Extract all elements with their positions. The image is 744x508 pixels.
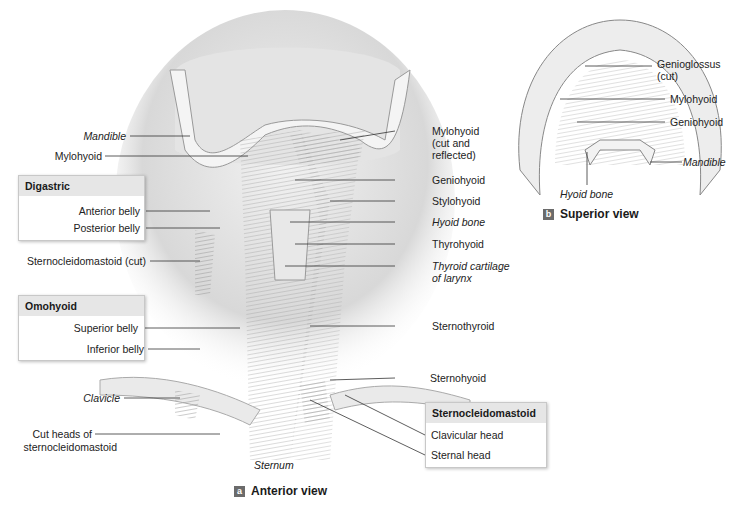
caption-superior-text: Superior view xyxy=(560,207,639,221)
label-mylohyoid-reflected-2: (cut and xyxy=(432,137,470,149)
omohyoid-title: Omohyoid xyxy=(19,296,144,316)
anatomy-illustration xyxy=(0,0,744,508)
label-thyrohyoid: Thyrohyoid xyxy=(432,238,484,250)
inset-label-genioglossus-2: (cut) xyxy=(657,70,678,82)
inset-label-genioglossus-1: Genioglossus xyxy=(657,58,721,70)
inset-label-mandible: Mandible xyxy=(683,156,726,168)
caption-anterior-text: Anterior view xyxy=(251,484,327,498)
label-posterior-belly: Posterior belly xyxy=(40,222,140,234)
label-superior-belly: Superior belly xyxy=(40,322,138,334)
label-anterior-belly: Anterior belly xyxy=(40,205,140,217)
label-sternum: Sternum xyxy=(254,459,294,471)
inset-label-geniohyoid: Geniohyoid xyxy=(670,116,723,128)
label-sternal-head: Sternal head xyxy=(431,449,491,461)
label-thyroid-cartilage-1: Thyroid cartilage xyxy=(432,260,510,272)
label-mylohyoid-reflected-3: reflected) xyxy=(432,149,476,161)
label-hyoid-bone: Hyoid bone xyxy=(432,216,485,228)
label-sternohyoid: Sternohyoid xyxy=(430,372,486,384)
caption-anterior-view: aAnterior view xyxy=(234,484,327,498)
sternocleidomastoid-title: Sternocleidomastoid xyxy=(426,403,546,423)
label-stylohyoid: Stylohyoid xyxy=(432,195,480,207)
label-sternocleidomastoid-cut: Sternocleidomastoid (cut) xyxy=(10,255,146,267)
label-mylohyoid: Mylohyoid xyxy=(30,150,102,162)
inset-label-mylohyoid: Mylohyoid xyxy=(670,93,717,105)
label-mylohyoid-reflected-1: Mylohyoid xyxy=(432,125,479,137)
badge-b: b xyxy=(543,209,554,220)
badge-a: a xyxy=(234,486,245,497)
label-cut-heads-2: sternocleidomastoid xyxy=(10,441,117,453)
inset-label-hyoid-bone: Hyoid bone xyxy=(560,188,613,200)
label-geniohyoid: Geniohyoid xyxy=(432,174,485,186)
label-inferior-belly: Inferior belly xyxy=(40,343,144,355)
label-clavicular-head: Clavicular head xyxy=(431,429,503,441)
caption-superior-view: bSuperior view xyxy=(543,207,639,221)
digastric-title: Digastric xyxy=(19,176,144,196)
label-clavicle: Clavicle xyxy=(50,392,120,404)
label-mandible: Mandible xyxy=(60,130,126,142)
label-thyroid-cartilage-2: of larynx xyxy=(432,272,472,284)
label-cut-heads-1: Cut heads of xyxy=(10,428,92,440)
label-sternothyroid: Sternothyroid xyxy=(432,320,494,332)
